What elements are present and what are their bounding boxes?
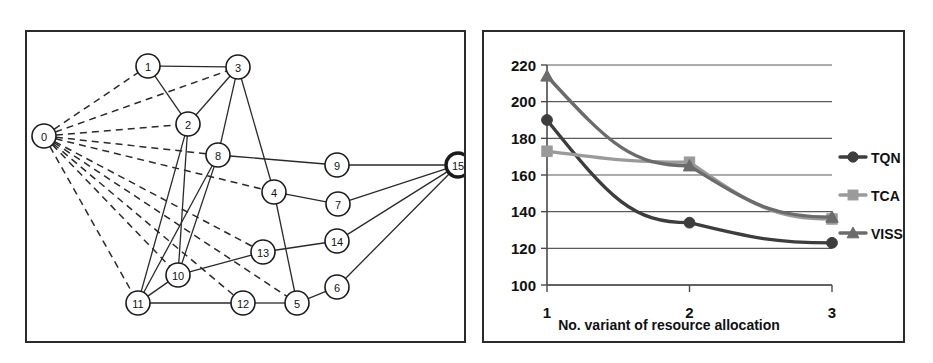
node-label-11: 11	[132, 298, 143, 310]
graph-edge-dashed-0-2	[56, 125, 176, 135]
series-TCA	[542, 146, 837, 224]
graph-edge-dashed-0-11	[50, 146, 132, 292]
legend-label-VISSIM: VISSIM	[871, 226, 903, 242]
graph-node-6[interactable]: 6	[325, 275, 349, 299]
node-label-2: 2	[185, 119, 191, 131]
graph-edge-3-4	[241, 79, 270, 181]
series-marker-TQN-3	[827, 237, 838, 248]
graph-node-9[interactable]: 9	[325, 153, 349, 177]
graph-edge-7-15	[349, 169, 446, 201]
graph-node-12[interactable]: 12	[231, 291, 255, 315]
node-label-4: 4	[271, 187, 277, 199]
legend-marker-TQN	[848, 152, 858, 162]
legend-label-TQN: TQN	[871, 150, 901, 166]
graph-edge-3-8	[221, 79, 236, 144]
y-tick-label-180: 180	[511, 130, 536, 147]
node-label-0: 0	[41, 131, 47, 143]
graph-node-2[interactable]: 2	[176, 112, 200, 136]
node-label-7: 7	[335, 199, 341, 211]
legend-marker-TCA	[848, 190, 858, 200]
node-label-5: 5	[294, 298, 300, 310]
chart-gridlines	[547, 65, 832, 285]
x-tick-label-3: 3	[828, 304, 836, 321]
series-marker-TQN-2	[684, 217, 695, 228]
x-tick-label-1: 1	[543, 304, 551, 321]
series-VISSIM	[541, 70, 838, 222]
graph-node-11[interactable]: 11	[126, 291, 150, 315]
y-tick-label-220: 220	[511, 57, 536, 74]
graph-edge-10-13	[190, 255, 252, 272]
series-marker-TQN-1	[542, 115, 553, 126]
graph-edge-dashed-0-3	[55, 71, 226, 132]
graph-edge-10-11	[148, 282, 168, 296]
graph-edge-5-6	[308, 291, 326, 298]
graph-node-0[interactable]: 0	[32, 124, 56, 148]
y-tick-label-100: 100	[511, 277, 536, 294]
node-label-3: 3	[235, 62, 241, 74]
graph-node-5[interactable]: 5	[285, 291, 309, 315]
node-label-13: 13	[257, 247, 269, 259]
figure-root: 0123456789101112131415 10012014016018020…	[0, 0, 933, 363]
graph-edge-2-10	[179, 136, 187, 263]
graph-node-8[interactable]: 8	[206, 143, 230, 167]
chart-y-tick-labels: 100120140160180200220	[511, 57, 536, 294]
node-label-6: 6	[334, 282, 340, 294]
line-chart-svg: 100120140160180200220 123 TQNTCAVISSIM N…	[484, 32, 903, 341]
y-tick-label-140: 140	[511, 203, 536, 220]
graph-node-3[interactable]: 3	[226, 55, 250, 79]
line-chart-panel: 100120140160180200220 123 TQNTCAVISSIM N…	[482, 30, 905, 343]
graph-edge-dashed-0-12	[53, 144, 234, 296]
graph-node-10[interactable]: 10	[166, 263, 190, 287]
series-TQN	[542, 115, 838, 249]
legend-entry-TCA[interactable]: TCA	[840, 188, 900, 204]
graph-edge-8-10	[182, 166, 214, 263]
chart-series-group	[541, 70, 838, 248]
node-label-14: 14	[331, 236, 343, 248]
legend-entry-TQN[interactable]: TQN	[840, 150, 901, 166]
y-tick-label-120: 120	[511, 240, 536, 257]
network-graph-panel: 0123456789101112131415	[25, 30, 466, 343]
node-label-12: 12	[237, 298, 249, 310]
node-label-1: 1	[145, 61, 151, 73]
chart-axes	[541, 65, 832, 292]
series-marker-TCA-1	[542, 146, 552, 156]
x-axis-title: No. variant of resource allocation	[558, 317, 780, 333]
series-line-VISSIM	[547, 76, 832, 217]
y-tick-label-200: 200	[511, 93, 536, 110]
node-label-9: 9	[334, 160, 340, 172]
graph-edge-8-9	[230, 156, 325, 164]
graph-edge-1-3	[160, 66, 226, 67]
chart-legend: TQNTCAVISSIM	[840, 150, 903, 242]
node-label-8: 8	[215, 150, 221, 162]
graph-node-7[interactable]: 7	[326, 192, 350, 216]
y-tick-label-160: 160	[511, 167, 536, 184]
graph-dashed-edge-group	[50, 71, 287, 296]
legend-label-TCA: TCA	[871, 188, 900, 204]
legend-entry-VISSIM[interactable]: VISSIM	[840, 226, 903, 242]
graph-edge-4-7	[286, 194, 326, 202]
graph-node-15[interactable]: 15	[446, 153, 464, 177]
node-label-10: 10	[172, 270, 184, 282]
graph-node-13[interactable]: 13	[251, 240, 275, 264]
graph-edge-dashed-0-1	[54, 73, 138, 130]
series-marker-VISSIM-1	[541, 70, 553, 81]
graph-edge-2-3	[196, 76, 230, 115]
graph-node-1[interactable]: 1	[136, 54, 160, 78]
graph-edge-13-14	[275, 243, 325, 250]
network-graph-svg: 0123456789101112131415	[27, 32, 464, 341]
graph-node-14[interactable]: 14	[325, 229, 349, 253]
node-label-15: 15	[452, 160, 464, 172]
graph-node-4[interactable]: 4	[262, 180, 286, 204]
